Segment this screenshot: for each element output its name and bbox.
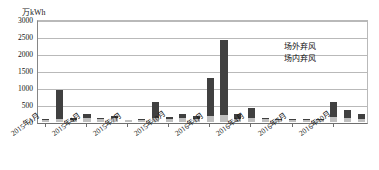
x-axis-tick-label: 2015年7月	[90, 110, 123, 138]
wind-curtailment-chart: 万kWh 050010001500200025003000 2015年1月201…	[0, 0, 379, 170]
x-axis-tick-label: 2016年4月	[213, 110, 246, 138]
x-axis-tick-label: 2015年4月	[49, 110, 82, 138]
legend-item-outer: 场外弃风	[262, 41, 372, 53]
chart-legend: 场外弃风 场内弃风	[262, 41, 372, 65]
x-axis-tick-label: 2016年1月	[172, 110, 205, 138]
legend-item-inner: 场内弃风	[262, 53, 372, 65]
x-axis-tick-label: 2016年10月	[296, 108, 332, 138]
x-axis-tick-label: 2016年7月	[255, 110, 288, 138]
x-axis-tick-labels: 2015年1月2015年4月2015年7月2015年10月2016年1月2016…	[0, 0, 379, 170]
x-axis-tick-label: 2015年1月	[8, 110, 41, 138]
x-axis-tick-label: 2015年10月	[131, 108, 167, 138]
